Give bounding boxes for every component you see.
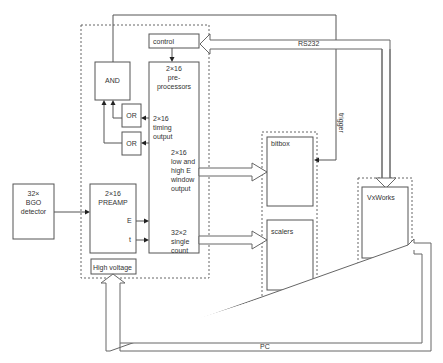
timing-output-line-3: output — [153, 133, 173, 141]
window-output-line-1: 2×16 — [171, 149, 187, 156]
or1-to-and-line — [113, 104, 122, 118]
scalers-label: scalers — [271, 228, 294, 235]
detector-line-2: BGO — [26, 199, 42, 206]
detector-line-3: detector — [21, 208, 47, 215]
block-diagram: trigger RS232 control 2×16 pre- processo… — [0, 0, 443, 363]
window-output-line-2: low and — [171, 158, 195, 165]
or-gate-1-label: OR — [126, 112, 137, 119]
single-count-line-3: count — [171, 247, 188, 254]
control-arrowhead-icon — [170, 57, 175, 62]
preamp-line-1: 2×16 — [105, 190, 121, 197]
preprocessors-line-2: pre- — [168, 74, 181, 82]
preamp-e-label: E — [127, 217, 132, 224]
preamp-t-label: t — [129, 236, 131, 243]
preamp-line-2: PREAMP — [98, 199, 128, 206]
detector-line-1: 32× — [28, 190, 40, 197]
preamp-t-arrowhead-icon — [144, 238, 149, 243]
vxworks-label: VxWorks — [367, 194, 395, 201]
timing-output-line-1: 2×16 — [153, 115, 169, 122]
or2-input-arrowhead-icon — [141, 141, 146, 146]
window-output-line-3: high E — [171, 167, 191, 175]
window-output-line-4: window — [170, 176, 195, 183]
or1-to-and-arrowhead-icon — [111, 100, 116, 105]
or2-to-and-arrowhead-icon — [102, 100, 107, 105]
or1-input-arrowhead-icon — [141, 116, 146, 121]
preprocessors-line-1: 2×16 — [166, 65, 182, 72]
preamp-e-arrowhead-icon — [144, 219, 149, 224]
bitbox-label: bitbox — [271, 140, 290, 147]
timing-output-line-2: timing — [153, 124, 172, 132]
single-count-line-1: 32×2 — [171, 229, 187, 236]
and-gate-label: AND — [105, 77, 120, 84]
control-label: control — [153, 38, 174, 45]
or-gate-2-label: OR — [126, 140, 137, 147]
rs232-label: RS232 — [298, 40, 320, 47]
preprocessors-line-3: processors — [157, 83, 192, 91]
pc-label: PC — [260, 343, 270, 350]
detector-arrowhead-icon — [85, 210, 90, 215]
single-count-line-2: single — [171, 238, 189, 246]
window-output-line-5: output — [171, 185, 191, 193]
trigger-label: trigger — [337, 113, 345, 134]
high-voltage-label: High voltage — [93, 264, 132, 272]
bitbox-box — [267, 137, 313, 206]
